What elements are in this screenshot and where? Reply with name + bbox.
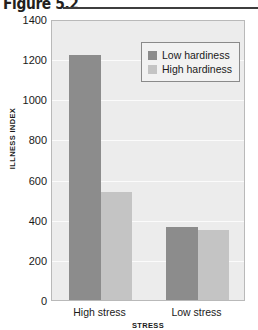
x-tick-label: Low stress bbox=[147, 306, 247, 318]
x-axis-title: STRESS bbox=[51, 321, 245, 330]
bar-low-hardiness-low-stress bbox=[166, 227, 198, 300]
legend-item: High hardiness bbox=[148, 62, 232, 76]
y-axis-title: ILLNESS INDEX bbox=[8, 94, 17, 184]
y-tick-label: 0 bbox=[3, 296, 47, 306]
bar-high-hardiness-high-stress bbox=[101, 192, 133, 300]
legend-swatch-icon bbox=[148, 65, 157, 74]
legend-swatch-icon bbox=[148, 51, 157, 60]
chart-figure: 1400120010008006004002000 ILLNESS INDEX … bbox=[0, 12, 258, 326]
y-tick-label: 400 bbox=[3, 216, 47, 226]
y-tick-label: 200 bbox=[3, 256, 47, 266]
chart-legend: Low hardinessHigh hardiness bbox=[141, 42, 240, 82]
bar-low-hardiness-high-stress bbox=[69, 55, 101, 300]
bar-high-hardiness-low-stress bbox=[198, 230, 230, 300]
y-tick-label: 1400 bbox=[3, 15, 47, 25]
x-tick-label: High stress bbox=[50, 306, 150, 318]
y-tick-label: 1200 bbox=[3, 55, 47, 65]
legend-item: Low hardiness bbox=[148, 48, 232, 62]
legend-label: Low hardiness bbox=[162, 49, 230, 61]
legend-label: High hardiness bbox=[162, 63, 232, 75]
title-rule bbox=[63, 7, 258, 9]
